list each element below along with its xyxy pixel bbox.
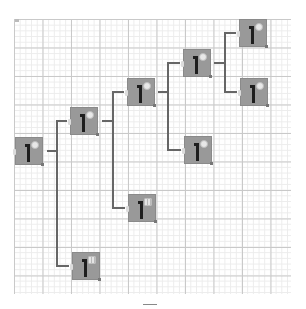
- diagram-node-n1[interactable]: [15, 137, 43, 165]
- node-status-icon: [256, 82, 264, 90]
- grid-origin-marker: [15, 19, 19, 22]
- diagram-canvas[interactable]: [0, 0, 306, 309]
- node-status-icon: [31, 141, 39, 149]
- input-port-icon[interactable]: [182, 148, 185, 154]
- node-status-icon: [88, 256, 96, 264]
- input-port-icon[interactable]: [125, 90, 128, 96]
- input-port-icon[interactable]: [70, 264, 73, 270]
- resize-handle[interactable]: [96, 133, 99, 136]
- input-port-icon[interactable]: [238, 90, 241, 96]
- diagram-node-n7[interactable]: [184, 136, 212, 164]
- resize-handle[interactable]: [41, 163, 44, 166]
- resize-handle[interactable]: [209, 75, 212, 78]
- diagram-node-n8[interactable]: [239, 19, 267, 47]
- diagram-node-n5[interactable]: [128, 194, 156, 222]
- diagram-node-n3[interactable]: [72, 252, 100, 280]
- node-status-icon: [255, 23, 263, 31]
- node-status-icon: [86, 111, 94, 119]
- input-port-icon[interactable]: [68, 119, 71, 125]
- diagram-node-n4[interactable]: [127, 78, 155, 106]
- resize-handle[interactable]: [266, 104, 269, 107]
- node-type-icon: [27, 144, 30, 162]
- footer-marker: [143, 304, 157, 305]
- resize-handle[interactable]: [153, 104, 156, 107]
- node-type-icon: [195, 56, 198, 74]
- node-status-icon: [143, 82, 151, 90]
- resize-handle[interactable]: [98, 278, 101, 281]
- diagram-node-n9[interactable]: [240, 78, 268, 106]
- node-type-icon: [140, 201, 143, 219]
- input-port-icon[interactable]: [181, 61, 184, 67]
- node-type-icon: [251, 26, 254, 44]
- grid-background: [14, 19, 291, 294]
- input-port-icon[interactable]: [237, 31, 240, 37]
- node-type-icon: [82, 114, 85, 132]
- node-status-icon: [200, 140, 208, 148]
- diagram-node-n6[interactable]: [183, 49, 211, 77]
- node-status-icon: [144, 198, 152, 206]
- node-status-icon: [199, 53, 207, 61]
- input-port-icon[interactable]: [13, 149, 16, 155]
- diagram-node-n2[interactable]: [70, 107, 98, 135]
- resize-handle[interactable]: [154, 220, 157, 223]
- input-port-icon[interactable]: [126, 206, 129, 212]
- resize-handle[interactable]: [265, 45, 268, 48]
- node-type-icon: [196, 143, 199, 161]
- node-type-icon: [84, 259, 87, 277]
- resize-handle[interactable]: [210, 162, 213, 165]
- node-type-icon: [139, 85, 142, 103]
- node-type-icon: [252, 85, 255, 103]
